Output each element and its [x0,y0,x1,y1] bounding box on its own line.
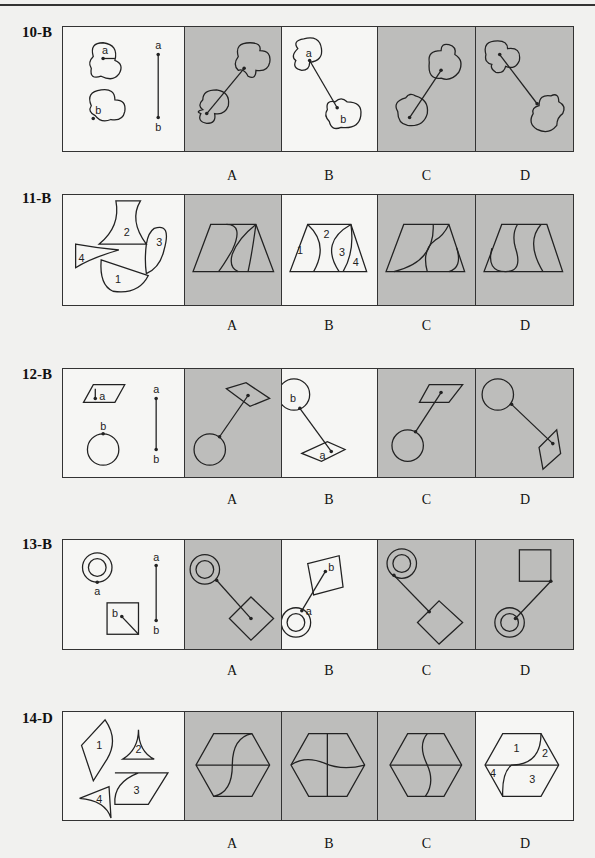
option-figure: 1 2 3 4 [282,195,377,305]
option-label-b: B [281,836,377,852]
label-a: a [102,44,109,56]
option-label-c: C [377,318,476,334]
option-figure [378,712,476,820]
option-cell-a[interactable] [184,195,282,305]
label-b: b [290,392,296,404]
figure-strip: a b a b [62,539,574,650]
option-label-a: A [183,492,281,508]
prompt-figure: 1 2 3 4 [63,712,184,820]
label-a: a [153,551,159,563]
option-label-d: D [476,318,574,334]
option-figure [282,712,377,820]
label-b: b [100,420,106,432]
option-cell-c[interactable] [377,540,476,649]
label-a: a [153,383,159,395]
option-figure: 1 2 3 4 [476,712,573,820]
prompt-figure: a b a b [63,27,184,151]
option-cell-b[interactable]: a b [281,27,377,151]
label-a: a [320,449,326,461]
option-label-d: D [476,492,574,508]
piece-1: 1 [514,742,520,754]
option-cell-c[interactable] [377,369,476,477]
option-label-c: C [377,168,476,184]
option-figure [476,540,573,649]
option-cell-b[interactable] [281,712,377,820]
option-labels: A B C D [62,168,574,184]
option-figure [476,195,573,305]
option-labels: A B C D [62,492,574,508]
option-figure [476,27,573,151]
piece-2: 2 [324,228,330,240]
piece-1: 1 [115,273,121,285]
label-b: b [155,121,161,133]
question-label: 10-B [22,24,52,41]
option-figure [378,369,476,477]
label-b: b [153,453,159,465]
option-figure [378,540,476,649]
label-b: b [112,607,118,619]
label-a: a [155,39,162,51]
option-figure [185,369,282,477]
option-label-b: B [281,663,377,679]
label-b: b [328,561,334,573]
option-cell-a[interactable] [184,712,282,820]
figure-strip: a b a b [62,368,574,478]
option-cell-d[interactable]: 1 2 3 4 [475,712,573,820]
prompt-cell: 1 2 3 4 [63,712,184,820]
label-a: a [306,605,312,617]
question-label: 11-B [22,190,51,207]
piece-4: 4 [79,252,85,264]
prompt-cell: a b a b [63,540,184,649]
label-b: b [340,113,346,125]
option-label-c: C [377,663,476,679]
option-cell-d[interactable] [475,369,573,477]
question-label: 13-B [22,536,52,553]
prompt-figure: a b a b [63,540,184,649]
figure-strip: 2 3 4 1 [62,194,574,306]
piece-3: 3 [339,246,345,258]
option-label-b: B [281,318,377,334]
option-figure [185,712,282,820]
option-figure [185,27,282,151]
option-figure [185,540,282,649]
figure-strip: a b a b [62,26,574,152]
question-label: 14-D [22,710,53,727]
option-cell-b[interactable]: b a [281,369,377,477]
option-figure [185,195,282,305]
option-cell-d[interactable] [475,540,573,649]
option-cell-b[interactable]: 1 2 3 4 [281,195,377,305]
option-labels: A B C D [62,663,574,679]
option-cell-a[interactable] [184,369,282,477]
piece-3: 3 [156,236,162,248]
option-cell-d[interactable] [475,195,573,305]
option-label-c: C [377,492,476,508]
piece-4: 4 [490,767,496,779]
question-label: 12-B [22,366,52,383]
option-label-a: A [183,168,281,184]
option-labels: A B C D [62,318,574,334]
option-cell-a[interactable] [184,540,282,649]
option-cell-c[interactable] [377,712,476,820]
piece-4: 4 [353,256,359,268]
option-label-d: D [476,836,574,852]
option-label-d: D [476,168,574,184]
label-a: a [99,390,105,402]
label-a: a [306,47,313,59]
label-b: b [153,624,159,636]
option-cell-c[interactable] [377,27,476,151]
option-label-a: A [183,318,281,334]
option-figure: a b [282,27,377,151]
option-cell-d[interactable] [475,27,573,151]
header-rule [0,4,595,6]
label-b: b [95,104,101,116]
option-cell-a[interactable] [184,27,282,151]
option-label-a: A [183,663,281,679]
option-figure [476,369,573,477]
option-figure: b a [282,540,377,649]
piece-2: 2 [124,226,130,238]
option-cell-b[interactable]: b a [281,540,377,649]
piece-1: 1 [297,244,303,256]
option-figure [378,27,476,151]
piece-3: 3 [134,784,140,796]
option-cell-c[interactable] [377,195,476,305]
